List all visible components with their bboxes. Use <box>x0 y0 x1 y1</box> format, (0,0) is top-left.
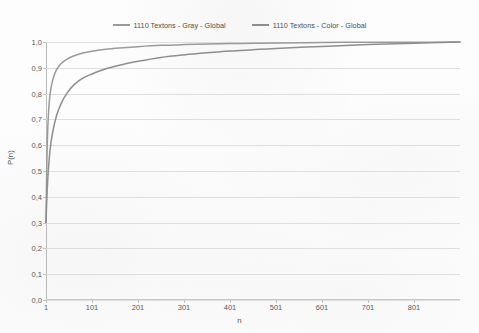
y-tick-label: 0,7 <box>31 115 42 124</box>
chart-legend: 1110 Textons - Gray - Global 1110 Texton… <box>0 18 479 32</box>
gridline-horizontal <box>46 300 460 301</box>
legend-label-gray: 1110 Textons - Gray - Global <box>134 21 226 30</box>
x-axis-title: n <box>0 316 479 325</box>
y-tick-label: 0,6 <box>31 141 42 150</box>
legend-item-color[interactable]: 1110 Textons - Color - Global <box>252 21 367 30</box>
x-tick-label: 701 <box>362 303 374 312</box>
series-line-gray <box>46 42 460 223</box>
y-tick-label: 0,0 <box>31 296 42 305</box>
y-tick-label: 0,5 <box>31 167 42 176</box>
series-line-color <box>46 42 460 223</box>
y-tick-label: 0,4 <box>31 192 42 201</box>
legend-label-color: 1110 Textons - Color - Global <box>273 21 367 30</box>
chart-figure: 1110 Textons - Gray - Global 1110 Texton… <box>0 0 479 333</box>
y-tick-label: 0,3 <box>31 218 42 227</box>
x-tick-label: 401 <box>224 303 236 312</box>
y-tick-label: 0,9 <box>31 63 42 72</box>
y-tick-label: 0,8 <box>31 89 42 98</box>
y-axis-title: P(n) <box>6 150 15 165</box>
y-tick-label: 0,1 <box>31 270 42 279</box>
x-tick-label: 1 <box>44 303 48 312</box>
series-curves <box>46 42 460 300</box>
legend-item-gray[interactable]: 1110 Textons - Gray - Global <box>113 21 226 30</box>
y-tick-label: 0,2 <box>31 244 42 253</box>
y-tick-label: 1,0 <box>31 38 42 47</box>
y-axis-tick-labels: 0,00,10,20,30,40,50,60,70,80,91,0 <box>0 42 42 300</box>
x-axis-tick-labels: 1101201301401501601701801 <box>46 303 460 315</box>
legend-swatch-gray <box>113 24 130 26</box>
x-tick-label: 801 <box>408 303 420 312</box>
x-tick-label: 601 <box>316 303 328 312</box>
x-tick-label: 201 <box>132 303 144 312</box>
x-tick-label: 301 <box>178 303 190 312</box>
plot-area <box>46 42 460 300</box>
chart-title <box>0 0 479 7</box>
legend-swatch-color <box>252 24 269 26</box>
x-tick-label: 501 <box>270 303 282 312</box>
x-tick-label: 101 <box>86 303 98 312</box>
